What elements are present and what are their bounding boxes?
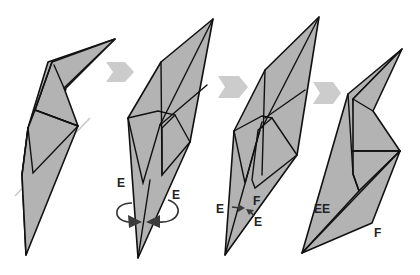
step-arrow-icon: [218, 76, 248, 98]
label-f: F: [253, 194, 260, 208]
origami-diagram: E E E F E EE F: [0, 0, 420, 275]
step-4-figure: EE F: [302, 49, 402, 253]
step-arrow-icon: [313, 82, 341, 104]
label-e-right: E: [172, 188, 180, 202]
label-e-left: E: [117, 176, 125, 190]
step-4-upper: [353, 49, 402, 151]
step-1-figure: [15, 39, 115, 255]
step-1-body: [22, 110, 78, 255]
step-3-outline: [225, 17, 319, 255]
label-ee: EE: [314, 202, 330, 216]
step-2-figure: E E: [117, 19, 213, 258]
label-e-right: E: [254, 215, 262, 229]
label-f: F: [374, 226, 381, 240]
step-3-figure: E F E: [216, 17, 319, 255]
step-arrow-icon: [106, 62, 134, 82]
label-e-left: E: [216, 202, 224, 216]
